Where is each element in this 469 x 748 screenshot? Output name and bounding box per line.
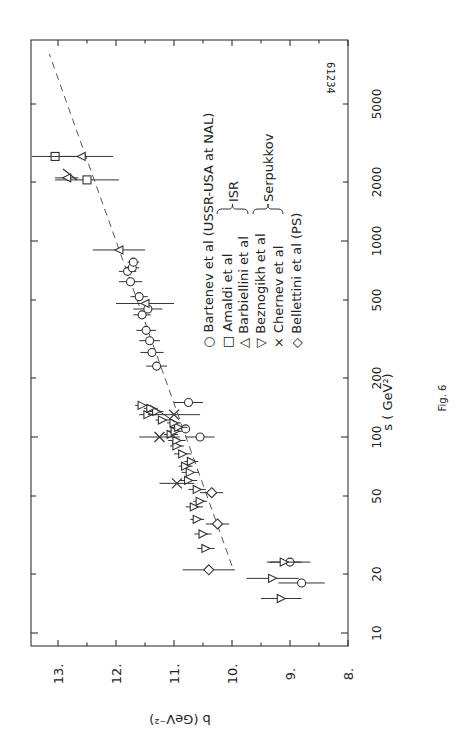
- square-marker: [83, 176, 91, 184]
- plate-number: 61234: [325, 62, 336, 94]
- data-points: [32, 152, 325, 602]
- triangle-up-marker: [115, 246, 123, 254]
- circle-marker: [127, 278, 135, 286]
- series-bellettini-et-al-ps-: [183, 488, 235, 575]
- triangle-down-marker: [173, 436, 181, 444]
- triangle-down-marker: [193, 485, 201, 493]
- circle-marker: [196, 433, 204, 441]
- s-axis-label: s ( GeV²): [380, 373, 395, 430]
- legend-item: △ Barbiellini et al: [236, 236, 251, 348]
- circle-marker: [298, 579, 306, 587]
- triangle-down-marker: [199, 530, 207, 538]
- b-axis-label: b (GeV⁻²): [149, 712, 211, 727]
- figure-caption: Fig. 6: [437, 385, 448, 412]
- s-tick-label: 5000: [370, 89, 384, 120]
- circle-marker: [185, 398, 193, 406]
- triangle-down-marker: [196, 497, 204, 505]
- series-barbiellini-et-al: [49, 152, 174, 307]
- triangle-down-marker: [186, 468, 194, 476]
- series-beznogikh-et-al: [135, 401, 301, 602]
- legend-item: × Chernev et al: [271, 246, 286, 348]
- b-tick-label: 13.: [51, 664, 66, 685]
- diamond-marker: [207, 488, 217, 498]
- circle-marker: [135, 293, 143, 301]
- s-tick-label: 10: [370, 625, 384, 640]
- b-tick-label: 12.: [109, 664, 124, 685]
- circle-marker: [153, 362, 161, 370]
- circle-marker: [142, 326, 150, 334]
- s-tick-label: 50: [370, 488, 384, 503]
- s-tick-label: 500: [370, 289, 384, 312]
- isr-group: ISR: [217, 181, 248, 214]
- serpukhov-group: Serpukkov: [253, 133, 283, 214]
- legend-item: ○ Bartenev et al (USSR-USA at NAL): [201, 113, 216, 348]
- triangle-up-marker: [63, 174, 71, 182]
- b-tick-label: 8.: [341, 668, 356, 680]
- legend-item: □ Amaldi et al: [220, 254, 235, 348]
- circle-marker: [182, 425, 190, 433]
- group-label: ISR: [226, 181, 241, 202]
- b-tick-label: 11.: [167, 664, 182, 685]
- triangle-down-marker: [158, 416, 166, 424]
- s-tick-label: 20: [370, 566, 384, 581]
- figure-6: 102050100200500100020005000 8.9.10.11.12…: [0, 0, 469, 748]
- b-tick-label: 9.: [283, 668, 298, 680]
- triangle-down-marker: [269, 574, 277, 582]
- triangle-down-marker: [193, 515, 201, 523]
- b-tick-label: 10.: [225, 664, 240, 685]
- circle-marker: [148, 348, 156, 356]
- triangle-down-marker: [179, 450, 187, 458]
- s-tick-label: 2000: [370, 167, 384, 198]
- legend-item: ◇ Bellettini et al (PS): [289, 213, 304, 348]
- bracket: [217, 204, 248, 214]
- circle-marker: [146, 337, 154, 345]
- triangle-down-marker: [277, 594, 285, 602]
- bracket: [253, 204, 283, 214]
- s-tick-label: 1000: [370, 226, 384, 257]
- group-label: Serpukkov: [261, 133, 276, 202]
- triangle-down-marker: [202, 544, 210, 552]
- diamond-marker: [204, 565, 214, 575]
- diamond-marker: [213, 519, 223, 529]
- legend: ○ Bartenev et al (USSR-USA at NAL)□ Amal…: [201, 113, 304, 348]
- triangle-up-marker: [77, 152, 85, 160]
- legend-item: ▽ Beznogikh et al: [253, 233, 268, 348]
- circle-marker: [129, 258, 137, 266]
